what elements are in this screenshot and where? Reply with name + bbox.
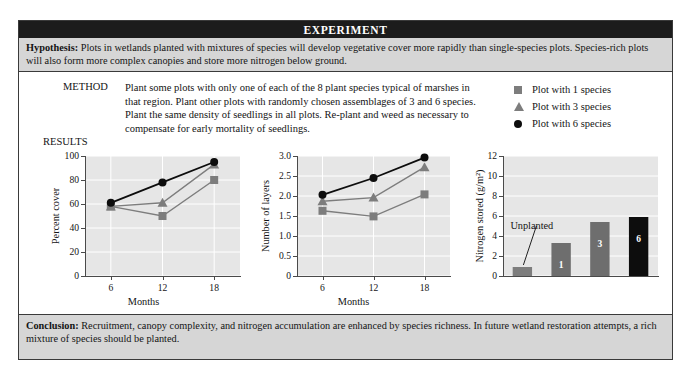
bar: [629, 217, 648, 276]
x-tick-label: 6: [91, 282, 131, 293]
legend-label: Plot with 6 species: [532, 118, 611, 129]
bar-value-label: 1: [546, 260, 576, 270]
x-axis-label: Months: [251, 296, 456, 307]
x-tick-label: 12: [143, 282, 183, 293]
data-point: [159, 179, 167, 187]
x-tick-mark: [163, 276, 164, 280]
x-tick-label: 18: [194, 282, 234, 293]
y-tick-label: 10: [473, 170, 497, 181]
y-tick-label: 0: [261, 270, 291, 281]
unplanted-annotation: Unplanted: [510, 220, 553, 231]
experiment-title-bar: EXPERIMENT: [19, 21, 672, 38]
conclusion-text: Recruitment, canopy complexity, and nitr…: [26, 320, 657, 344]
y-tick-label: 20: [49, 246, 79, 257]
y-tick-label: 4: [473, 230, 497, 241]
legend-item-1-species: Plot with 1 species: [514, 81, 611, 98]
data-point: [369, 193, 379, 202]
square-marker-icon: [514, 86, 532, 94]
data-point: [370, 174, 378, 182]
page-title: EXPERIMENT: [304, 24, 388, 36]
x-tick-mark: [425, 276, 426, 280]
y-tick-label: 12: [473, 150, 497, 161]
x-tick-mark: [374, 276, 375, 280]
chart-percent-cover: Percent coverMonths02040608010061218: [41, 150, 246, 320]
method-block: METHOD Plant some plots with only one of…: [63, 81, 493, 135]
hypothesis-label: Hypothesis:: [26, 42, 78, 53]
legend-item-3-species: Plot with 3 species: [514, 98, 611, 115]
legend-label: Plot with 3 species: [532, 101, 611, 112]
y-tick-label: 0: [473, 270, 497, 281]
data-point: [421, 191, 429, 199]
y-tick-label: 0.5: [261, 250, 291, 261]
x-tick-label: 6: [303, 282, 343, 293]
x-axis-label: Months: [41, 296, 246, 307]
legend: Plot with 1 species Plot with 3 species …: [514, 81, 611, 132]
legend-item-6-species: Plot with 6 species: [514, 115, 611, 132]
chart-number-of-layers: Number of layersMonths00.51.01.52.02.53.…: [251, 150, 456, 320]
data-point: [319, 191, 327, 199]
bar: [590, 222, 609, 276]
y-tick-label: 40: [49, 222, 79, 233]
y-tick-label: 2.0: [261, 190, 291, 201]
x-axis-line: [503, 276, 659, 277]
circle-marker-icon: [514, 120, 532, 128]
y-tick-label: 8: [473, 190, 497, 201]
data-point: [210, 176, 218, 184]
results-label: RESULTS: [43, 136, 88, 147]
bar: [513, 267, 532, 276]
data-point: [210, 158, 218, 166]
bar-value-label: 6: [624, 234, 654, 244]
y-tick-label: 1.0: [261, 230, 291, 241]
hypothesis-block: Hypothesis: Plots in wetlands planted wi…: [19, 38, 672, 72]
y-tick-label: 0: [49, 270, 79, 281]
data-point: [158, 198, 168, 207]
method-text: Plant some plots with only one of each o…: [125, 81, 485, 135]
y-tick-label: 6: [473, 210, 497, 221]
y-axis-line: [297, 156, 298, 277]
annotation-leader-line: [523, 226, 536, 265]
y-axis-line: [85, 156, 86, 277]
plot-area: [85, 156, 240, 276]
y-tick-label: 60: [49, 198, 79, 209]
triangle-marker-icon: [514, 102, 532, 111]
experiment-figure: EXPERIMENT Hypothesis: Plots in wetlands…: [18, 20, 673, 360]
y-tick-label: 3.0: [261, 150, 291, 161]
y-tick-label: 100: [49, 150, 79, 161]
y-tick-label: 80: [49, 174, 79, 185]
x-tick-mark: [214, 276, 215, 280]
x-tick-label: 18: [405, 282, 445, 293]
x-tick-mark: [323, 276, 324, 280]
data-point: [420, 163, 430, 172]
plot-area: [297, 156, 450, 276]
data-point: [319, 207, 327, 215]
conclusion-block: Conclusion: Recruitment, canopy complexi…: [19, 314, 672, 359]
method-label: METHOD: [63, 81, 125, 135]
data-point: [107, 199, 115, 207]
data-point: [421, 154, 429, 162]
chart-nitrogen-stored: Nitrogen stored (g/m²)024681012136Unplan…: [467, 150, 667, 320]
data-point: [159, 212, 167, 220]
x-tick-mark: [111, 276, 112, 280]
figure-body: METHOD Plant some plots with only one of…: [19, 72, 672, 327]
y-tick-label: 2.5: [261, 170, 291, 181]
y-axis-line: [503, 156, 504, 277]
x-tick-label: 12: [354, 282, 394, 293]
bar-value-label: 3: [585, 239, 615, 249]
y-tick-label: 2: [473, 250, 497, 261]
conclusion-label: Conclusion:: [26, 320, 79, 331]
plot-area: [503, 156, 658, 276]
y-tick-label: 1.5: [261, 210, 291, 221]
data-point: [370, 213, 378, 221]
legend-label: Plot with 1 species: [532, 84, 611, 95]
hypothesis-text: Plots in wetlands planted with mixtures …: [26, 42, 648, 66]
